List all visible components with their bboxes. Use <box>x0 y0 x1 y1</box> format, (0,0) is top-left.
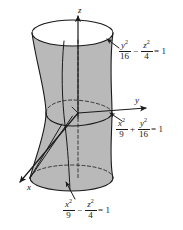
denominator: 9 <box>65 211 73 221</box>
operator: + <box>128 125 137 134</box>
denominator: 16 <box>138 130 150 140</box>
denominator: 4 <box>87 211 95 221</box>
equation-yz-trace: y2 16 − z2 4 = 1 <box>118 41 166 61</box>
equals-value: = 1 <box>150 125 163 134</box>
denominator: 9 <box>118 130 126 140</box>
fraction-term-1: x2 9 <box>116 119 128 139</box>
equals-value: = 1 <box>97 206 110 215</box>
numerator: z2 <box>86 200 96 210</box>
fraction-term-1: x2 9 <box>63 200 75 220</box>
x-axis-label: x <box>27 183 31 192</box>
denominator: 4 <box>143 52 151 62</box>
operator: − <box>75 206 84 215</box>
fraction-term-1: y2 16 <box>119 41 131 61</box>
operator: − <box>131 47 140 56</box>
fraction-term-2: z2 4 <box>85 200 97 220</box>
z-axis-label: z <box>78 6 82 15</box>
equation-xy-trace: x2 9 + y2 16 = 1 <box>115 119 163 139</box>
equation-xz-trace: x2 9 − z2 4 = 1 <box>62 200 110 220</box>
numerator: x2 <box>117 119 127 129</box>
y-axis-label: y <box>135 96 139 105</box>
numerator: y2 <box>120 41 130 51</box>
equals-value: = 1 <box>153 47 166 56</box>
numerator: z2 <box>142 41 152 51</box>
fraction-term-2: y2 16 <box>138 119 150 139</box>
denominator: 16 <box>119 52 131 62</box>
numerator: x2 <box>64 200 74 210</box>
figure-canvas <box>0 0 183 230</box>
numerator: y2 <box>139 119 149 129</box>
hyperboloid-figure: z y x y2 16 − z2 4 = 1 x2 9 + y2 16 = 1 <box>0 0 183 230</box>
fraction-term-2: z2 4 <box>141 41 153 61</box>
